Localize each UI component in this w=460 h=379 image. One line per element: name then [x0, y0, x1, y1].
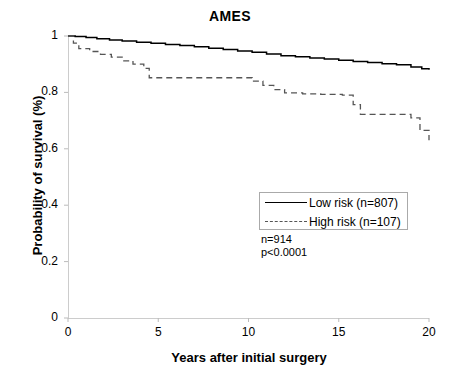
y-tick-label: 0.8: [24, 84, 58, 98]
x-tick-label: 0: [53, 325, 83, 339]
y-tick-label: 0: [24, 310, 58, 324]
legend-label-high-risk: High risk (n=107): [309, 215, 401, 229]
x-tick-label: 15: [324, 325, 354, 339]
x-axis-title: Years after initial surgery: [68, 350, 430, 365]
data-series-group: [68, 36, 429, 140]
legend-entry-low-risk: Low risk (n=807): [260, 193, 409, 212]
axes: [64, 36, 429, 322]
y-tick-label: 0.4: [24, 197, 58, 211]
x-tick-label: 10: [234, 325, 264, 339]
legend-entry-high-risk: High risk (n=107): [260, 212, 409, 231]
y-tick-label: 0.6: [24, 141, 58, 155]
annotation-p-value: p<0.0001: [261, 246, 307, 258]
plot-area: [0, 0, 460, 379]
x-tick-label: 20: [414, 325, 444, 339]
legend-line-solid-icon: [265, 197, 307, 209]
y-tick-label: 1: [24, 28, 58, 42]
legend-line-dashed-icon: [265, 216, 307, 228]
y-axis-ticks: [64, 36, 68, 318]
legend-label-low-risk: Low risk (n=807): [309, 196, 398, 210]
x-tick-label: 5: [143, 325, 173, 339]
y-tick-label: 0.2: [24, 254, 58, 268]
chart-figure: AMES Probability of survival (%) Years a…: [0, 0, 460, 379]
series-line-low-risk: [68, 36, 429, 70]
chart-legend: Low risk (n=807) High risk (n=107): [259, 192, 408, 230]
annotation-sample-size: n=914: [261, 233, 292, 245]
